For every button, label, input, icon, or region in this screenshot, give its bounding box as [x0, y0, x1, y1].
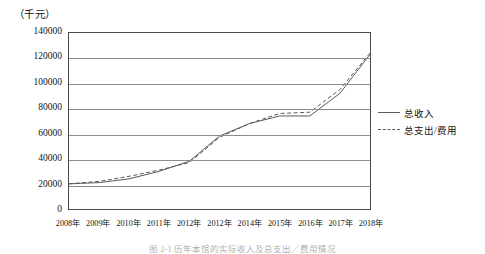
gridline [69, 186, 370, 187]
x-axis-tick-label: 2009年 [86, 220, 110, 228]
legend-line-swatch-solid [378, 112, 400, 113]
legend-item: 总收入 [378, 104, 483, 121]
y-axis-tick-label: 120000 [6, 53, 62, 63]
plot-area [68, 32, 371, 210]
y-axis-tick-label: 40000 [6, 154, 62, 164]
figure-chart-income-expenditure: （千元） 14000012000010000080000600004000020… [0, 0, 485, 254]
x-axis-tick-label: 2017年 [329, 220, 353, 228]
y-axis-tick-label: 0 [6, 205, 62, 215]
gridline [69, 109, 370, 110]
x-axis-tick-label: 2011年 [147, 220, 171, 228]
x-axis-tick-label: 2018年 [359, 220, 383, 228]
y-axis-tick-label: 80000 [6, 104, 62, 114]
legend-label: 总支出/费用 [404, 123, 457, 137]
legend-item: 总支出/费用 [378, 121, 483, 138]
y-axis-tick-labels: 140000120000100000800006000040000200000 [2, 0, 62, 254]
y-axis-tick-label: 20000 [6, 180, 62, 190]
y-axis-tick-label: 60000 [6, 129, 62, 139]
x-axis-tick-label: 2015年 [268, 220, 292, 228]
gridline [69, 160, 370, 161]
gridline [69, 84, 370, 85]
legend-label: 总收入 [404, 106, 434, 120]
x-axis-tick-label: 2010年 [116, 220, 140, 228]
x-axis-tick-labels: 2008年2009年2010年2011年2012年2012年2014年2015年… [0, 220, 485, 234]
legend-line-swatch-dashed [378, 129, 400, 130]
y-axis-tick-label: 140000 [6, 27, 62, 37]
series-line-expenditure [69, 53, 370, 184]
x-axis-tick-label: 2012年 [207, 220, 231, 228]
y-axis-tick-label: 100000 [6, 78, 62, 88]
x-axis-tick-label: 2008年 [56, 220, 80, 228]
gridline [69, 58, 370, 59]
series-line-revenue [69, 54, 370, 183]
figure-caption: 图 2-1 历年本馆的实际收入及总支出／费用情况 [0, 242, 485, 254]
gridline [69, 135, 370, 136]
chart-legend: 总收入总支出/费用 [378, 104, 483, 138]
x-axis-tick-label: 2012年 [177, 220, 201, 228]
x-axis-tick-label: 2016年 [298, 220, 322, 228]
x-axis-tick-label: 2014年 [238, 220, 262, 228]
